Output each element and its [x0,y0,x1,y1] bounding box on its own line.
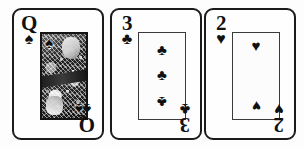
court-face-shape [62,37,80,59]
card-rank-label: Q [79,116,95,134]
spade-icon: ♠ [45,36,53,51]
court-collar-shape [46,96,64,114]
card-index-top-left: 2 ♥ [210,14,232,47]
club-icon: ♣ [180,101,191,117]
heart-icon: ♥ [216,31,226,47]
card-index-bottom-right: 2 ♥ [268,101,290,134]
card-index-top-left: 3 ♣ [116,14,138,47]
club-icon: ♣ [157,68,167,83]
card-index-top-left: Q ♠ [18,14,40,47]
playing-card-two-of-hearts[interactable]: 2 ♥ ♥ ♥ 2 ♥ [204,8,296,140]
card-hand: Q ♠ ♠ ♠ Q ♠ 3 ♣ ♣ ♣ ♣ 3 ♣ [0,0,304,148]
playing-card-queen-of-spades[interactable]: Q ♠ ♠ ♠ Q ♠ [12,8,104,140]
card-rank-label: 3 [180,116,190,134]
heart-icon: ♥ [252,98,261,113]
club-icon: ♣ [157,94,167,109]
club-icon: ♣ [157,43,167,58]
club-icon: ♣ [122,31,133,47]
spade-icon: ♠ [25,31,34,47]
spade-icon: ♠ [83,101,92,117]
heart-icon: ♥ [274,101,284,117]
playing-card-three-of-clubs[interactable]: 3 ♣ ♣ ♣ ♣ 3 ♣ [110,8,202,140]
heart-icon: ♥ [252,39,261,54]
card-rank-label: 2 [274,116,284,134]
card-index-bottom-right: 3 ♣ [174,101,196,134]
card-index-bottom-right: Q ♠ [76,101,98,134]
